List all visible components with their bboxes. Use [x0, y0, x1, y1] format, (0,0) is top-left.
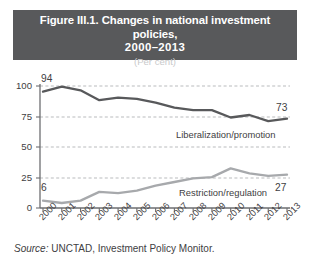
value-label-restriction-end: 27: [275, 182, 286, 193]
source-text: UNCTAD, Investment Policy Monitor.: [48, 243, 214, 254]
value-label-liberalization-end: 73: [276, 102, 287, 113]
source-note: Source: UNCTAD, Investment Policy Monito…: [14, 243, 214, 254]
y-tick-label-0: 0: [6, 203, 32, 213]
series-annotation-liberalization-promotion: Liberalization/promotion: [176, 129, 276, 140]
source-label: Source:: [14, 243, 48, 254]
figure-container: Figure III.1. Changes in national invest…: [0, 0, 311, 264]
y-tick-label-25: 25: [6, 173, 32, 183]
y-tick-label-75: 75: [6, 112, 32, 122]
series-line-liberalization-promotion: [43, 87, 287, 122]
figure-title-years: 2000–2013: [13, 41, 297, 54]
series-annotation-restriction-regulation: Restriction/regulation: [179, 187, 267, 198]
value-label-restriction-start: 6: [41, 182, 47, 193]
chart-plot-area: 100 75 50 25 0 2000 2001 2002 2003 2004 …: [0, 62, 311, 238]
y-tick-label-100: 100: [6, 81, 32, 91]
value-label-liberalization-start: 94: [41, 73, 52, 84]
figure-title: Figure III.1. Changes in national invest…: [13, 14, 297, 41]
y-tick-label-50: 50: [6, 142, 32, 152]
figure-title-band: Figure III.1. Changes in national invest…: [13, 10, 297, 60]
